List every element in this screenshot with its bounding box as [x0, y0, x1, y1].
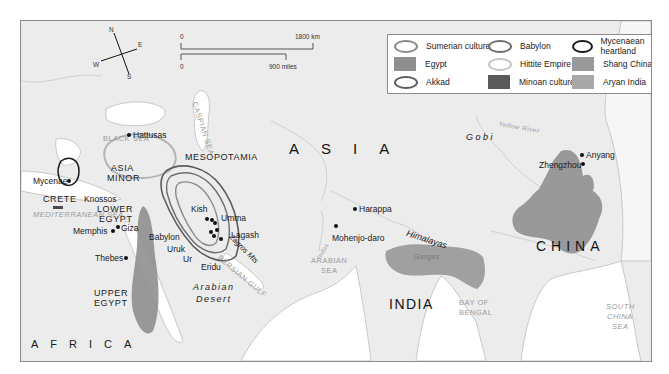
compass-east: E — [138, 41, 142, 48]
label-bay-of-bengal-2: BENGAL — [459, 309, 492, 317]
aryan-swatch-icon — [572, 75, 594, 89]
legend-label: Sumerian culture — [426, 41, 490, 51]
label-india: INDIA — [389, 297, 434, 311]
scale-miles-start: 0 — [180, 63, 184, 70]
city-dot-babylon — [205, 217, 209, 221]
compass-north: N — [109, 26, 114, 33]
label-ur: Ur — [183, 255, 192, 264]
label-africa: AFRICA — [31, 339, 143, 350]
aryan-india-region — [385, 244, 485, 289]
label-upper-egypt-1: UPPER — [94, 289, 128, 298]
label-anyang: Anyang — [586, 151, 615, 160]
compass-west: W — [93, 61, 99, 68]
label-mohenjo-daro: Mohenjo-daro — [332, 234, 384, 243]
minoan-region — [53, 206, 63, 209]
legend-egypt: Egypt — [394, 57, 447, 71]
label-eridu: Eridu — [201, 263, 221, 272]
label-mesopotamia: MESOPOTAMIA — [185, 153, 258, 162]
shang-swatch-icon — [572, 57, 594, 71]
scale-km-end: 1800 km — [295, 33, 320, 40]
hittite-swatch-icon — [488, 58, 512, 71]
map-frame: 0 1800 km 0 900 miles N E S W Sumerian c… — [20, 20, 652, 362]
label-umma: Umma — [221, 214, 246, 223]
legend-akkad: Akkad — [394, 75, 450, 89]
label-china: CHINA — [536, 239, 605, 253]
label-arabian-desert-2: Desert — [196, 295, 232, 304]
label-asia-minor-2: MINOR — [107, 174, 140, 183]
label-lagash: Lagash — [231, 231, 259, 240]
legend-minoan: Minoan culture — [488, 75, 575, 89]
city-dot-anyang — [580, 153, 584, 157]
aegean — [56, 139, 81, 166]
scale-km-start: 0 — [180, 33, 184, 40]
label-zhengzhou: Zhengzhou — [539, 161, 582, 170]
minoan-swatch-icon — [488, 75, 510, 89]
city-dot-giza — [116, 225, 120, 229]
label-harappa: Harappa — [359, 205, 392, 214]
city-dot-memphis — [111, 229, 115, 233]
city-dot-umma — [213, 221, 217, 225]
legend-label: Mycenaean heartland — [601, 36, 652, 56]
label-asia-minor-1: ASIA — [111, 164, 134, 173]
compass-rose — [101, 33, 137, 74]
city-dot-thebes — [124, 256, 128, 260]
label-babylon: Babylon — [149, 233, 180, 242]
egypt-swatch-icon — [394, 57, 416, 71]
scale-bars — [181, 43, 313, 60]
label-crete: CRETE — [43, 195, 77, 204]
label-south-china-sea-2: CHINA — [607, 313, 633, 321]
city-dot-harappa — [353, 207, 357, 211]
label-uruk: Uruk — [167, 245, 185, 254]
label-asia: ASIA — [289, 141, 411, 156]
label-arabian-desert-1: Arabian — [193, 283, 235, 292]
legend-hittite: Hittite Empire — [488, 57, 571, 71]
label-mediterranean-sea: MEDITERRANEAN SEA — [33, 211, 124, 219]
legend-label: Akkad — [426, 77, 450, 87]
legend-shang: Shang China — [572, 57, 652, 71]
akkad-swatch-icon — [394, 76, 418, 89]
legend-label: Shang China — [603, 59, 652, 69]
legend-mycenaean: Mycenaean heartland — [572, 39, 652, 53]
south-china-sea — [521, 261, 641, 361]
label-giza: Giza — [121, 224, 138, 233]
legend-aryan: Aryan India — [572, 75, 646, 89]
map-legend: Sumerian culture Babylon Mycenaean heart… — [387, 34, 652, 94]
label-thebes: Thebes — [95, 254, 123, 263]
mycenaean-swatch-icon — [572, 40, 593, 53]
label-upper-egypt-2: EGYPT — [94, 299, 128, 308]
label-gobi: G o b i — [466, 133, 493, 142]
legend-label: Minoan culture — [519, 77, 575, 87]
label-arabian-sea-1: ARABIAN — [311, 257, 347, 265]
label-south-china-sea-3: SEA — [612, 323, 629, 331]
sumerian-swatch-icon — [394, 40, 418, 53]
label-south-china-sea-1: SOUTH — [606, 303, 635, 311]
legend-babylon: Babylon — [488, 39, 551, 53]
city-dot-hattusas — [127, 133, 131, 137]
legend-label: Aryan India — [603, 77, 646, 87]
legend-label: Babylon — [520, 41, 551, 51]
city-dot-lagash — [215, 228, 219, 232]
label-knossos: Knossos — [84, 195, 117, 204]
legend-label: Egypt — [425, 59, 447, 69]
scale-miles-end: 900 miles — [269, 63, 297, 70]
legend-label: Hittite Empire — [520, 59, 571, 69]
label-bay-of-bengal-1: BAY OF — [459, 299, 489, 307]
bay-of-bengal — [416, 276, 486, 361]
label-ganges: Ganges — [414, 254, 440, 261]
city-dot-mohenjo-daro — [334, 224, 338, 228]
city-dot-eridu — [219, 237, 223, 241]
babylon-swatch-icon — [488, 40, 512, 53]
label-kish: Kish — [191, 205, 208, 214]
legend-sumerian: Sumerian culture — [394, 39, 490, 53]
label-hattusas: Hattusas — [133, 131, 167, 140]
label-memphis: Memphis — [73, 227, 107, 236]
black-sea — [106, 102, 165, 126]
label-mycenae: Mycenae — [33, 177, 68, 186]
label-arabian-sea-2: SEA — [321, 267, 338, 275]
compass-south: S — [127, 73, 131, 80]
city-dot-ur — [212, 234, 216, 238]
